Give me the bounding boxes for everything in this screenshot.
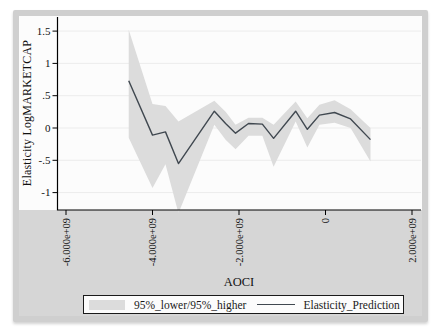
legend: 95%_lower/95%_higher Elasticity_Predicti…	[83, 295, 404, 314]
y-axis-title: Elasticity LogMARKETCAP	[20, 40, 35, 186]
x-axis-title: AOCI	[224, 275, 255, 290]
figure-window	[13, 10, 428, 322]
prediction-line-sample	[257, 304, 295, 305]
prediction-line-label: Elasticity_Prediction	[303, 299, 399, 311]
confidence-band-swatch	[89, 300, 125, 310]
confidence-band-label: 95%_lower/95%_higher	[134, 299, 246, 311]
